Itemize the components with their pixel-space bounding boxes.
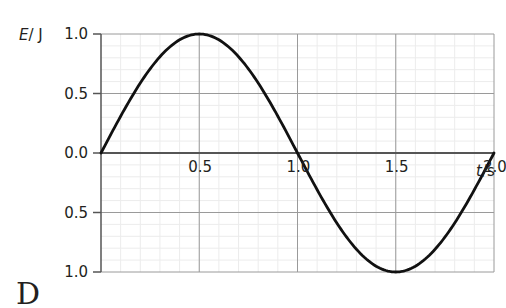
x-tick-label: 0.5 (188, 158, 212, 176)
y-tick-label: 0.5 (64, 85, 88, 103)
y-tick-label: 1.0 (64, 25, 88, 43)
y-tick-label: 0.5 (64, 204, 88, 222)
y-tick-labels: 1.00.50.00.51.0 (64, 25, 88, 281)
x-tick-labels: 0.51.01.52.0 (188, 158, 506, 176)
y-tick-label: 1.0 (64, 263, 88, 281)
y-tick-label: 0.0 (64, 144, 88, 162)
option-letter: D (16, 279, 40, 308)
x-axis-label: t/s (476, 162, 495, 180)
x-tick-label: 1.5 (385, 158, 409, 176)
x-tick-label: 1.0 (287, 158, 311, 176)
y-axis-label: E/ J (19, 26, 43, 44)
